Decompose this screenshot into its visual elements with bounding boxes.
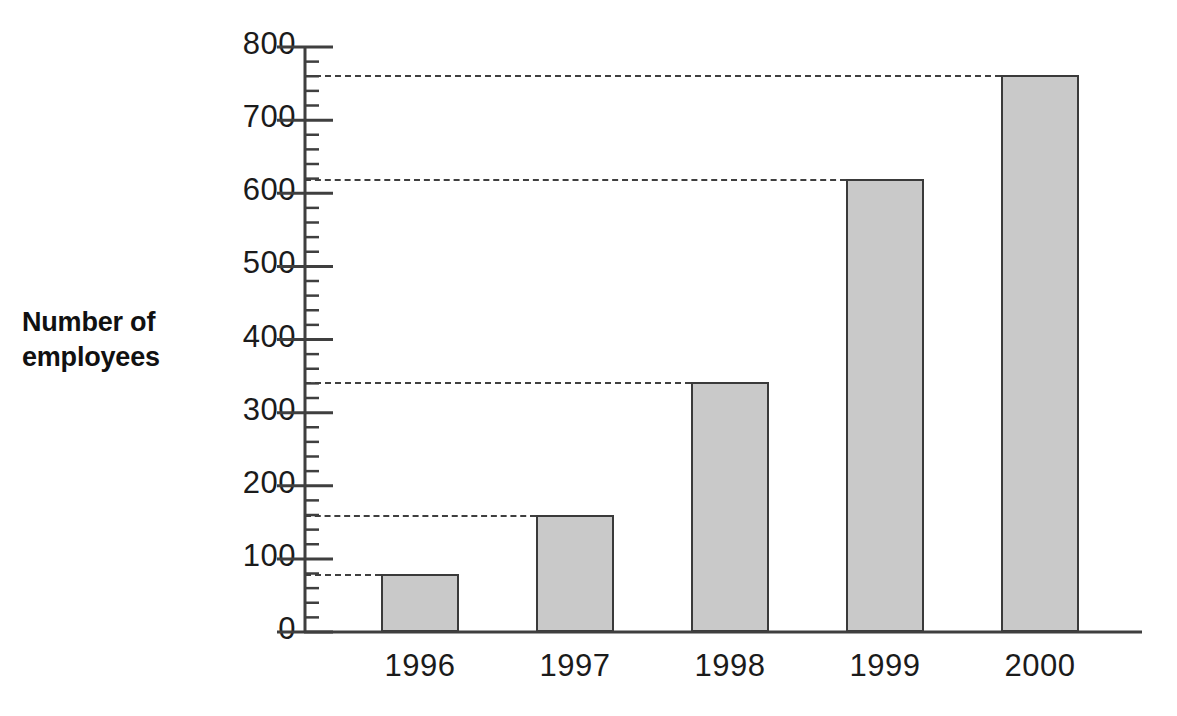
x-tick-label-1997: 1997 [505,648,645,684]
bar-chart: Number of employees 01002003004005006007… [0,0,1177,716]
x-tick-label-2000: 2000 [970,648,1110,684]
x-tick-label-1998: 1998 [660,648,800,684]
x-tick-label-1996: 1996 [350,648,490,684]
chart-axes [0,0,1177,716]
x-tick-label-1999: 1999 [815,648,955,684]
